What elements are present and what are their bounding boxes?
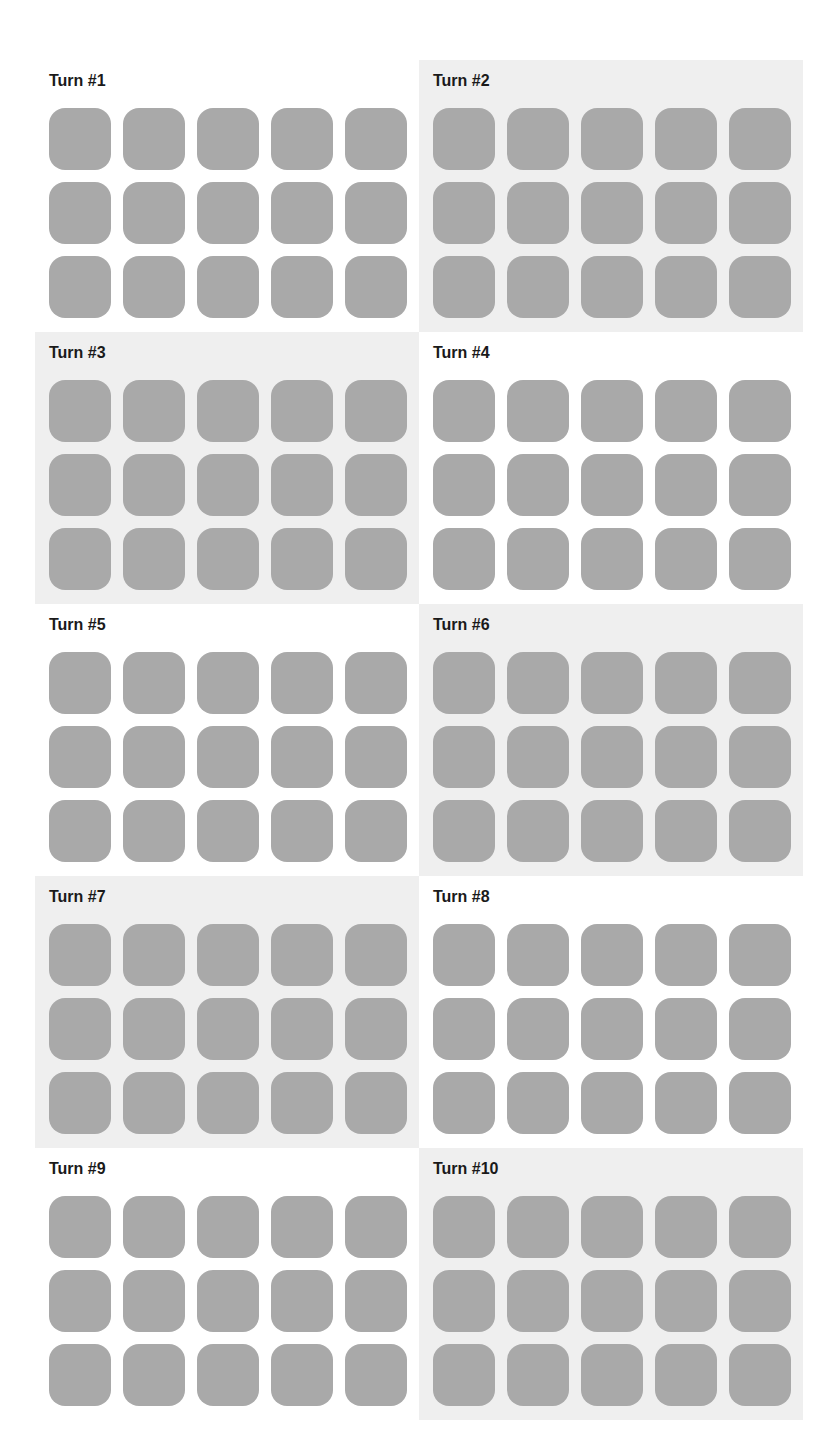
tile[interactable]: [729, 528, 791, 590]
tile[interactable]: [655, 652, 717, 714]
tile[interactable]: [271, 1196, 333, 1258]
tile[interactable]: [123, 380, 185, 442]
tile[interactable]: [123, 108, 185, 170]
tile[interactable]: [123, 528, 185, 590]
tile[interactable]: [433, 924, 495, 986]
tile[interactable]: [345, 454, 407, 516]
tile[interactable]: [655, 1072, 717, 1134]
tile[interactable]: [433, 1196, 495, 1258]
tile[interactable]: [49, 1196, 111, 1258]
tile[interactable]: [581, 998, 643, 1060]
tile[interactable]: [729, 256, 791, 318]
tile[interactable]: [433, 528, 495, 590]
tile[interactable]: [507, 108, 569, 170]
tile[interactable]: [49, 182, 111, 244]
tile[interactable]: [655, 998, 717, 1060]
tile[interactable]: [345, 108, 407, 170]
tile[interactable]: [655, 800, 717, 862]
tile[interactable]: [197, 380, 259, 442]
tile[interactable]: [197, 1072, 259, 1134]
tile[interactable]: [197, 800, 259, 862]
tile[interactable]: [123, 800, 185, 862]
tile[interactable]: [433, 454, 495, 516]
tile[interactable]: [581, 1270, 643, 1332]
tile[interactable]: [49, 1072, 111, 1134]
tile[interactable]: [507, 998, 569, 1060]
tile[interactable]: [123, 182, 185, 244]
tile[interactable]: [123, 1196, 185, 1258]
tile[interactable]: [581, 924, 643, 986]
tile[interactable]: [433, 726, 495, 788]
tile[interactable]: [655, 256, 717, 318]
tile[interactable]: [655, 1270, 717, 1332]
tile[interactable]: [123, 998, 185, 1060]
tile[interactable]: [49, 454, 111, 516]
tile[interactable]: [197, 256, 259, 318]
tile[interactable]: [433, 652, 495, 714]
tile[interactable]: [729, 182, 791, 244]
tile[interactable]: [655, 924, 717, 986]
tile[interactable]: [271, 454, 333, 516]
tile[interactable]: [507, 380, 569, 442]
tile[interactable]: [507, 454, 569, 516]
tile[interactable]: [345, 1072, 407, 1134]
tile[interactable]: [123, 726, 185, 788]
tile[interactable]: [271, 182, 333, 244]
tile[interactable]: [345, 1270, 407, 1332]
tile[interactable]: [49, 108, 111, 170]
tile[interactable]: [729, 1072, 791, 1134]
tile[interactable]: [581, 256, 643, 318]
tile[interactable]: [729, 1270, 791, 1332]
tile[interactable]: [345, 380, 407, 442]
tile[interactable]: [49, 800, 111, 862]
tile[interactable]: [655, 182, 717, 244]
tile[interactable]: [345, 1196, 407, 1258]
tile[interactable]: [507, 1196, 569, 1258]
tile[interactable]: [197, 454, 259, 516]
tile[interactable]: [345, 256, 407, 318]
tile[interactable]: [197, 1196, 259, 1258]
tile[interactable]: [507, 1270, 569, 1332]
tile[interactable]: [433, 108, 495, 170]
tile[interactable]: [581, 652, 643, 714]
tile[interactable]: [49, 256, 111, 318]
tile[interactable]: [197, 924, 259, 986]
tile[interactable]: [507, 256, 569, 318]
tile[interactable]: [433, 998, 495, 1060]
tile[interactable]: [729, 800, 791, 862]
tile[interactable]: [197, 528, 259, 590]
tile[interactable]: [581, 454, 643, 516]
tile[interactable]: [197, 652, 259, 714]
tile[interactable]: [507, 800, 569, 862]
tile[interactable]: [729, 454, 791, 516]
tile[interactable]: [271, 108, 333, 170]
tile[interactable]: [729, 924, 791, 986]
tile[interactable]: [655, 380, 717, 442]
tile[interactable]: [655, 1196, 717, 1258]
tile[interactable]: [655, 1344, 717, 1406]
tile[interactable]: [507, 924, 569, 986]
tile[interactable]: [507, 182, 569, 244]
tile[interactable]: [345, 800, 407, 862]
tile[interactable]: [433, 380, 495, 442]
tile[interactable]: [271, 998, 333, 1060]
tile[interactable]: [123, 1344, 185, 1406]
tile[interactable]: [433, 182, 495, 244]
tile[interactable]: [197, 726, 259, 788]
tile[interactable]: [433, 256, 495, 318]
tile[interactable]: [729, 1196, 791, 1258]
tile[interactable]: [581, 726, 643, 788]
tile[interactable]: [655, 528, 717, 590]
tile[interactable]: [581, 1196, 643, 1258]
tile[interactable]: [271, 528, 333, 590]
tile[interactable]: [581, 800, 643, 862]
tile[interactable]: [49, 652, 111, 714]
tile[interactable]: [49, 1270, 111, 1332]
tile[interactable]: [433, 800, 495, 862]
tile[interactable]: [345, 1344, 407, 1406]
tile[interactable]: [123, 924, 185, 986]
tile[interactable]: [197, 108, 259, 170]
tile[interactable]: [581, 182, 643, 244]
tile[interactable]: [49, 528, 111, 590]
tile[interactable]: [49, 1344, 111, 1406]
